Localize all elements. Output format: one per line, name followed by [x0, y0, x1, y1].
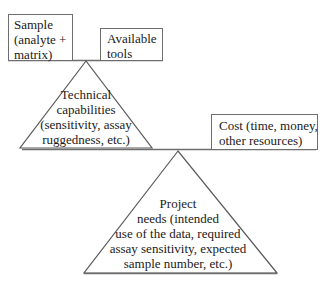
fulcrum-text-line: sample number, etc.) — [103, 256, 253, 271]
available-tools-line: tools — [107, 46, 158, 61]
technical-capabilities-label: Technical capabilities (sensitivity, ass… — [26, 87, 146, 147]
cost-box-line: Cost (time, money, — [219, 118, 313, 133]
fulcrum-text-line: needs (intended — [103, 211, 253, 226]
sample-box-line: Sample — [14, 17, 68, 32]
fulcrum-text-line: Project — [103, 196, 253, 211]
available-tools-line: Available — [107, 31, 158, 46]
fulcrum-text-line: (sensitivity, assay — [26, 117, 146, 132]
fulcrum-text-line: Technical — [26, 87, 146, 102]
sample-box-line: (analyte + — [14, 32, 68, 47]
cost-box: Cost (time, money, other resources) — [211, 114, 318, 150]
sample-box-line: matrix) — [14, 47, 68, 62]
sample-box: Sample (analyte + matrix) — [8, 14, 73, 61]
fulcrum-text-line: use of the data, required — [103, 226, 253, 241]
project-needs-label: Project needs (intended use of the data,… — [103, 196, 253, 271]
available-tools-box: Available tools — [100, 28, 163, 61]
cost-box-line: other resources) — [219, 133, 313, 148]
fulcrum-text-line: ruggedness, etc.) — [26, 132, 146, 147]
fulcrum-text-line: assay sensitivity, expected — [103, 241, 253, 256]
fulcrum-text-line: capabilities — [26, 102, 146, 117]
